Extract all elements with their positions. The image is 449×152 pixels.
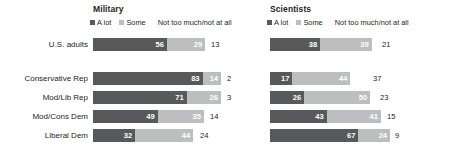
legend-item-some: Some — [296, 18, 322, 27]
bar-value-some: 44 — [182, 129, 190, 142]
bar-value-not-too-much: 14 — [210, 110, 218, 123]
bar-value-a-lot: 43 — [315, 110, 323, 123]
bar-value-some: 14 — [210, 72, 218, 85]
legend-label-some: Some — [126, 18, 145, 27]
panel-title-military: Military — [93, 4, 124, 14]
row-label: Liberal Dem — [45, 129, 93, 142]
bar-value-a-lot: 56 — [155, 38, 163, 51]
bar-value-a-lot: 26 — [293, 91, 301, 104]
legend-item-a-lot: A lot — [267, 18, 288, 27]
bar-segment-some: 41 — [327, 110, 381, 123]
bar-row: 17 44 37 — [270, 72, 402, 85]
bar-value-not-too-much: 21 — [382, 38, 390, 51]
bar-value-a-lot: 71 — [175, 91, 183, 104]
legend-scientists: A lot Some Not too much/not at all — [267, 18, 409, 27]
legend-swatch-a-lot-icon — [267, 20, 272, 25]
bar-segment-some: 26 — [187, 91, 221, 104]
bar-value-some: 35 — [192, 110, 200, 123]
bar-value-some: 50 — [359, 91, 367, 104]
bar-segment-some: 29 — [167, 38, 205, 51]
legend-item-not-too-much: Not too much/not at all — [335, 18, 409, 27]
bar-segment-some: 44 — [135, 129, 193, 142]
panel-title-scientists: Scientists — [270, 4, 311, 14]
bar-value-not-too-much: 37 — [373, 72, 381, 85]
bar-value-some: 44 — [339, 72, 347, 85]
stacked-bar: 83 14 — [93, 72, 225, 85]
bar-row: 38 39 21 — [270, 38, 402, 51]
bar-segment-some: 14 — [203, 72, 222, 85]
stacked-bar: 43 41 — [270, 110, 402, 123]
legend-label-not-too-much: Not too much/not at all — [158, 18, 232, 27]
bar-value-not-too-much: 9 — [395, 129, 399, 142]
bar-row: Mod/Cons Dem 49 35 14 — [93, 110, 225, 123]
legend-item-a-lot: A lot — [90, 18, 111, 27]
row-label: Conservative Rep — [24, 72, 93, 85]
legend-label-a-lot: A lot — [274, 18, 288, 27]
bar-value-some: 26 — [210, 91, 218, 104]
bar-segment-a-lot: 26 — [270, 91, 304, 104]
bar-segment-a-lot: 38 — [270, 38, 320, 51]
bar-value-a-lot: 49 — [146, 110, 154, 123]
bar-segment-a-lot: 49 — [93, 110, 158, 123]
bar-row: 43 41 15 — [270, 110, 402, 123]
bar-segment-a-lot: 56 — [93, 38, 167, 51]
bar-row: 26 50 23 — [270, 91, 402, 104]
bar-segment-some: 35 — [158, 110, 204, 123]
stacked-bar: 17 44 — [270, 72, 402, 85]
bar-value-not-too-much: 15 — [387, 110, 395, 123]
bar-row: Conservative Rep 83 14 2 — [93, 72, 225, 85]
grouped-stacked-bar-chart: Military A lot Some Not too much/not at … — [0, 0, 449, 152]
bar-segment-a-lot: 17 — [270, 72, 292, 85]
legend-label-a-lot: A lot — [97, 18, 111, 27]
bar-segment-a-lot: 83 — [93, 72, 203, 85]
bar-segment-some: 50 — [304, 91, 370, 104]
bar-value-not-too-much: 13 — [211, 38, 219, 51]
bar-value-a-lot: 67 — [347, 129, 355, 142]
bar-row: U.S. adults 56 29 13 — [93, 38, 225, 51]
bar-value-not-too-much: 24 — [200, 129, 208, 142]
bar-row: Mod/Lib Rep 71 26 3 — [93, 91, 225, 104]
legend-swatch-some-icon — [119, 20, 124, 25]
bar-segment-some: 44 — [292, 72, 350, 85]
legend-swatch-a-lot-icon — [90, 20, 95, 25]
legend-military: A lot Some Not too much/not at all — [90, 18, 232, 27]
bar-value-a-lot: 32 — [124, 129, 132, 142]
panel-scientists: Scientists A lot Some Not too much/not a… — [224, 0, 449, 152]
bar-value-some: 29 — [194, 38, 202, 51]
bar-row: 67 24 9 — [270, 129, 402, 142]
legend-item-not-too-much: Not too much/not at all — [158, 18, 232, 27]
bar-segment-a-lot: 71 — [93, 91, 187, 104]
bar-row: Liberal Dem 32 44 24 — [93, 129, 225, 142]
legend-label-some: Some — [303, 18, 322, 27]
bar-segment-some: 39 — [320, 38, 372, 51]
panel-military: Military A lot Some Not too much/not at … — [0, 0, 225, 152]
bar-value-some: 24 — [379, 129, 387, 142]
row-label: Mod/Lib Rep — [43, 91, 93, 104]
stacked-bar: 56 29 — [93, 38, 225, 51]
bar-segment-a-lot: 67 — [270, 129, 358, 142]
bar-value-a-lot: 83 — [191, 72, 199, 85]
bar-segment-a-lot: 43 — [270, 110, 327, 123]
row-label: Mod/Cons Dem — [32, 110, 93, 123]
bar-value-some: 41 — [369, 110, 377, 123]
bar-value-some: 39 — [360, 38, 368, 51]
row-label: U.S. adults — [49, 38, 93, 51]
bar-segment-a-lot: 32 — [93, 129, 135, 142]
bar-value-a-lot: 17 — [281, 72, 289, 85]
stacked-bar: 67 24 — [270, 129, 402, 142]
bar-segment-some: 24 — [358, 129, 390, 142]
legend-label-not-too-much: Not too much/not at all — [335, 18, 409, 27]
stacked-bar: 49 35 — [93, 110, 225, 123]
stacked-bar: 71 26 — [93, 91, 225, 104]
legend-swatch-some-icon — [296, 20, 301, 25]
bar-value-not-too-much: 23 — [380, 91, 388, 104]
legend-item-some: Some — [119, 18, 145, 27]
bar-value-a-lot: 38 — [309, 38, 317, 51]
